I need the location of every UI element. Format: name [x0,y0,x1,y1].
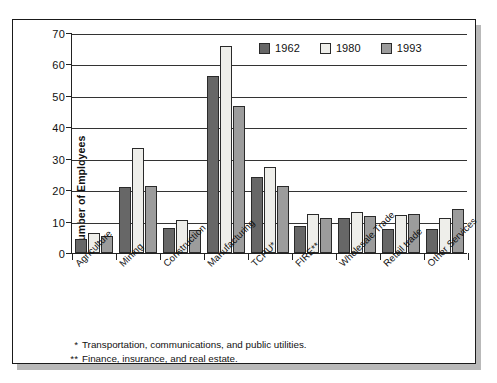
bar-group [160,34,204,253]
bar-groups [72,34,467,253]
bar-group [248,34,292,253]
y-tick-label: 50 [52,91,65,103]
bar[interactable] [145,186,157,253]
bar[interactable] [119,187,131,253]
x-tick-mark [248,253,249,260]
y-tick-label: 30 [52,154,65,166]
bar-group [291,34,335,253]
bar[interactable] [251,177,263,253]
x-tick-mark [336,253,337,260]
y-tick-label: 60 [52,59,65,71]
figure-root: Number of Employees 196219801993 0102030… [0,0,497,383]
bar[interactable] [220,46,232,253]
x-tick-mark [116,253,117,260]
footnote-text: Finance, insurance, and real estate. [82,352,238,366]
y-tick-label: 40 [52,122,65,134]
x-tick-mark [424,253,425,260]
footnote-text: Transportation, communications, and publ… [82,338,307,352]
bar[interactable] [132,148,144,253]
bar-group [335,34,379,253]
bar[interactable] [207,76,219,253]
footnote-row: *Transportation, communications, and pub… [61,338,307,352]
bar-group [423,34,467,253]
x-tick-mark [160,253,161,260]
plot-area: 010203040506070 [71,34,467,254]
bar-group [72,34,116,253]
chart-figure-frame: Number of Employees 196219801993 0102030… [12,19,476,364]
x-tick-mark [468,253,469,260]
x-tick-mark [72,253,73,260]
x-axis-labels: AgricultureMiningConstructionManufacturi… [71,261,467,331]
y-tick-label: 70 [52,28,65,40]
x-tick-mark [380,253,381,260]
footnote-marker: * [61,338,78,352]
x-tick-mark [292,253,293,260]
x-tick-mark [204,253,205,260]
footnote-marker: ** [61,352,78,366]
y-tick-label: 0 [59,248,65,260]
footnote-row: **Finance, insurance, and real estate. [61,352,307,366]
bar[interactable] [277,186,289,253]
bar-group [204,34,248,253]
chart-footnotes: *Transportation, communications, and pub… [61,338,307,366]
y-tick-label: 20 [52,185,65,197]
bar-group [116,34,160,253]
y-tick-label: 10 [52,217,65,229]
bar[interactable] [320,218,332,253]
